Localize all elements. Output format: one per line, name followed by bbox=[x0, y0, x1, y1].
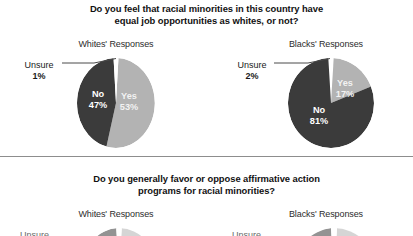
slice-label-blacks-q1-yes-name: Yes bbox=[337, 78, 353, 88]
slice-label-whites-q1-yes-name: Yes bbox=[121, 91, 137, 101]
slice-label-blacks-q1-no-pct: 81% bbox=[310, 116, 328, 126]
leader-line-whites-q1-unsure bbox=[62, 58, 118, 68]
callout-blacks-q2-unsure: Unsure bbox=[232, 230, 261, 236]
question-title-2-line2: programs for racial minorities? bbox=[0, 185, 413, 197]
survey-section-job-opportunities: Do you feel that racial minorities in th… bbox=[0, 0, 413, 157]
question-title-2-line1: Do you generally favor or oppose affirma… bbox=[0, 173, 413, 185]
panel-title-whites-q1: Whites' Responses bbox=[36, 39, 196, 49]
callout-whites-q1-unsure-label: Unsure bbox=[24, 60, 53, 70]
poll-results-figure: Do you feel that racial minorities in th… bbox=[0, 0, 413, 236]
callout-whites-q2-unsure: Unsure bbox=[20, 230, 49, 236]
panel-title-whites-q2: Whites' Responses bbox=[36, 209, 196, 219]
leader-line-blacks-q1-unsure bbox=[274, 58, 332, 68]
callout-whites-q1-unsure-pct: 1% bbox=[15, 71, 63, 82]
callout-blacks-q1-unsure-pct: 2% bbox=[228, 71, 276, 82]
callout-blacks-q1-unsure: Unsure 2% bbox=[228, 60, 276, 81]
slice-label-blacks-q1-yes-pct: 17% bbox=[336, 89, 354, 99]
pie-chart-blacks-q1 bbox=[288, 58, 374, 148]
slice-label-blacks-q1-no: No 81% bbox=[303, 105, 335, 126]
slice-label-whites-q1-no-name: No bbox=[92, 89, 104, 99]
slice-label-blacks-q1-no-name: No bbox=[313, 105, 325, 115]
panel-title-blacks-q1: Blacks' Responses bbox=[246, 39, 406, 49]
question-title-1-line2: equal job opportunities as whites, or no… bbox=[0, 15, 413, 27]
question-title-1-line1: Do you feel that racial minorities in th… bbox=[0, 3, 413, 15]
cropped-lower-charts: Unsure Unsure bbox=[0, 222, 413, 236]
slice-label-blacks-q1-yes: Yes 17% bbox=[330, 78, 360, 99]
slice-label-whites-q1-no: No 47% bbox=[82, 89, 114, 110]
panel-title-blacks-q2: Blacks' Responses bbox=[246, 209, 406, 219]
slice-label-whites-q1-yes: Yes 53% bbox=[113, 91, 145, 112]
pie-chart-whites-q2 bbox=[80, 228, 158, 236]
question-title-2: Do you generally favor or oppose affirma… bbox=[0, 173, 413, 198]
slice-label-whites-q1-yes-pct: 53% bbox=[120, 102, 138, 112]
callout-whites-q1-unsure: Unsure 1% bbox=[15, 60, 63, 81]
callout-blacks-q1-unsure-label: Unsure bbox=[237, 60, 266, 70]
question-title-1: Do you feel that racial minorities in th… bbox=[0, 3, 413, 28]
pie-chart-blacks-q2 bbox=[291, 228, 377, 236]
slice-label-whites-q1-no-pct: 47% bbox=[89, 100, 107, 110]
